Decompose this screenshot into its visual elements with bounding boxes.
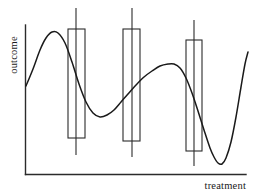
box-whisker-3 [186, 20, 202, 166]
x-axis-label: treatment [205, 180, 246, 191]
axes-group [26, 25, 247, 175]
figure-canvas: treatment outcome [0, 0, 262, 194]
outcome-curve [26, 31, 248, 164]
dose-response-figure: treatment outcome [0, 0, 262, 194]
box-whisker-1 [68, 8, 85, 155]
y-axis-label: outcome [8, 36, 19, 74]
